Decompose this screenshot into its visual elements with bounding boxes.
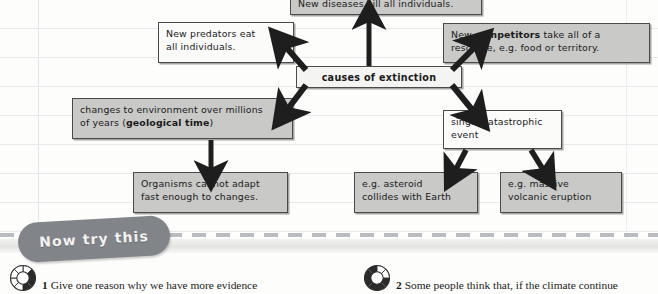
arrow-single-to-asteroid [455, 150, 466, 171]
question-item-1: 1Give one reason why we have more eviden… [8, 262, 257, 292]
question-2-text-row: 2Some people think that, if the climate … [396, 279, 618, 292]
arrow-center-to-changes [287, 85, 306, 110]
questions-area: 1Give one reason why we have more eviden… [0, 262, 658, 294]
arrow-center-to-single [452, 85, 474, 112]
now-try-this-banner: Now try this [17, 215, 171, 263]
question-2-number: 2 [396, 279, 402, 291]
arrow-single-to-volcanic [531, 150, 544, 171]
question-2-text: Some people think that, if the climate c… [405, 279, 618, 291]
now-try-this-label: Now try this [17, 215, 171, 263]
question-item-2: 2Some people think that, if the climate … [362, 262, 618, 292]
extinction-concept-map [0, 0, 658, 240]
progress-ring-icon [362, 262, 392, 292]
progress-ring-icon [8, 262, 38, 292]
question-1-text: Give one reason why we have more evidenc… [51, 279, 258, 291]
arrow-center-to-competitors [452, 46, 476, 70]
arrow-center-to-predators [285, 46, 306, 70]
question-1-text-row: 1Give one reason why we have more eviden… [42, 279, 257, 292]
question-1-number: 1 [42, 279, 48, 291]
